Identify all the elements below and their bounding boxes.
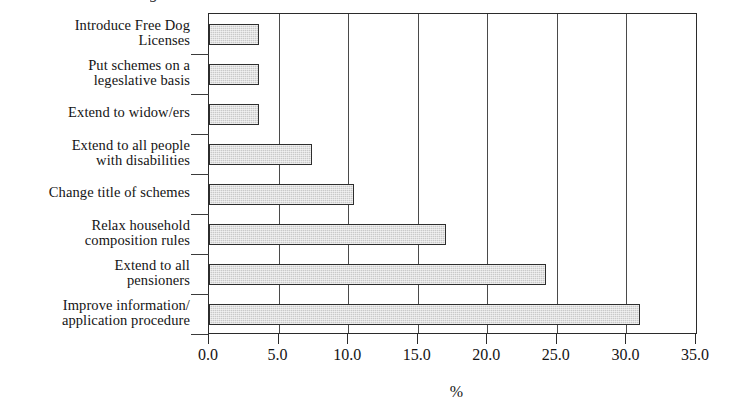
y-axis-tick [191,294,209,295]
category-label-line: Introduce Free Dog [0,18,190,34]
category-label: Put schemes on alegeslative basis [0,58,190,89]
plot-area [208,13,697,334]
x-axis-tick-label: 30.0 [590,346,660,364]
category-label-line: Extend to all people [0,138,190,154]
bar [209,144,312,165]
bar-band [209,94,696,134]
bar-band [209,54,696,94]
bar [209,64,259,85]
x-axis-tick-label: 20.0 [451,346,521,364]
bar [209,24,259,45]
category-label-line: Licenses [0,33,190,49]
x-axis-line [208,333,696,334]
x-axis-title: % [0,383,733,401]
x-axis-tick [278,333,279,344]
bar-band [209,214,696,254]
x-axis-tick-label: 0.0 [173,346,243,364]
bar [209,264,546,285]
category-label-line: pensioners [0,273,190,289]
category-label: Change title of schemes [0,185,190,201]
bar [209,184,354,205]
category-label-line: composition rules [0,233,190,249]
x-axis-tick-label: 10.0 [312,346,382,364]
bar [209,104,259,125]
x-axis-tick [695,333,696,344]
x-axis-tick-label: 25.0 [521,346,591,364]
category-label: Introduce Free DogLicenses [0,18,190,49]
category-label-line: Improve information/ [0,298,190,314]
gridline-vertical [696,14,697,334]
category-label-line: Put schemes on a [0,58,190,74]
x-axis-tick [347,333,348,344]
category-label: Relax householdcomposition rules [0,218,190,249]
category-label-line: Extend to all [0,258,190,274]
x-axis-tick [625,333,626,344]
x-axis-tick [208,333,209,344]
y-axis-tick [191,174,209,175]
x-axis-tick-label: 35.0 [660,346,730,364]
y-axis-tick [191,134,209,135]
x-axis-tick-label: 5.0 [243,346,313,364]
category-label: Extend to all peoplewith disabilities [0,138,190,169]
bar-band [209,294,696,334]
bar-band [209,254,696,294]
bar-band [209,174,696,214]
category-label-line: legeslative basis [0,73,190,89]
category-label: Improve information/application procedur… [0,298,190,329]
category-label-column: Introduce Free DogLicensesPut schemes on… [0,13,196,333]
x-axis-tick [486,333,487,344]
category-label: Extend to allpensioners [0,258,190,289]
bar-band [209,134,696,174]
y-axis-tick [191,334,209,335]
bar [209,224,446,245]
x-axis-tick-label: 15.0 [382,346,452,364]
chart-title-clipped: g [150,0,570,5]
bar [209,304,640,325]
category-label-line: Extend to widow/ers [0,105,190,121]
x-axis-title-text: % [450,383,463,400]
category-label-line: with disabilities [0,153,190,169]
category-label: Extend to widow/ers [0,105,190,121]
category-label-line: Relax household [0,218,190,234]
category-label-line: Change title of schemes [0,185,190,201]
y-axis-tick [191,254,209,255]
x-axis-tick [556,333,557,344]
bar-band [209,14,696,54]
y-axis-tick [191,54,209,55]
y-axis-tick [191,94,209,95]
bar-chart-figure: g Introduce Free DogLicensesPut schemes … [0,0,733,417]
x-axis-tick [417,333,418,344]
category-label-line: application procedure [0,313,190,329]
y-axis-tick [191,214,209,215]
